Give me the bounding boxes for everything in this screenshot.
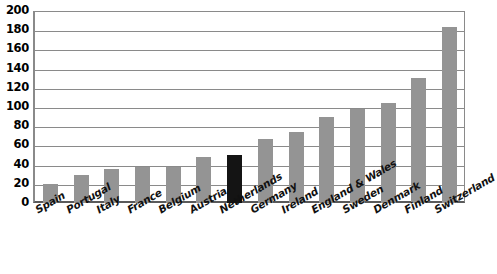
bar-england-wales[interactable] xyxy=(319,117,334,203)
bars-group xyxy=(35,11,465,203)
y-axis-tick-label: 20 xyxy=(0,178,29,189)
y-axis-tick-label: 80 xyxy=(0,120,29,131)
y-axis-tick-label: 40 xyxy=(0,159,29,170)
bar-slot xyxy=(96,11,127,203)
x-axis: SpainPortugalItalyFranceBelgiumAustriaNe… xyxy=(35,205,475,274)
y-axis-tick-label: 120 xyxy=(0,82,29,93)
bar-slot xyxy=(281,11,312,203)
bar-slot xyxy=(127,11,158,203)
bar-slot xyxy=(66,11,97,203)
bar-slot xyxy=(189,11,220,203)
bar-slot xyxy=(434,11,465,203)
bar-slot xyxy=(311,11,342,203)
y-axis-tick-label: 0 xyxy=(0,197,29,208)
y-axis-tick-label: 200 xyxy=(0,5,29,16)
y-axis-tick-label: 60 xyxy=(0,139,29,150)
y-axis: 200180160140120100806040200 xyxy=(0,0,33,274)
y-axis-tick-label: 180 xyxy=(0,24,29,35)
y-axis-tick-label: 140 xyxy=(0,63,29,74)
bar-slot xyxy=(158,11,189,203)
bar-slot xyxy=(404,11,435,203)
bar-switzerland[interactable] xyxy=(442,27,457,203)
bar-slot xyxy=(35,11,66,203)
y-axis-tick-label: 160 xyxy=(0,43,29,54)
bar-slot xyxy=(219,11,250,203)
y-axis-tick-label: 100 xyxy=(0,101,29,112)
